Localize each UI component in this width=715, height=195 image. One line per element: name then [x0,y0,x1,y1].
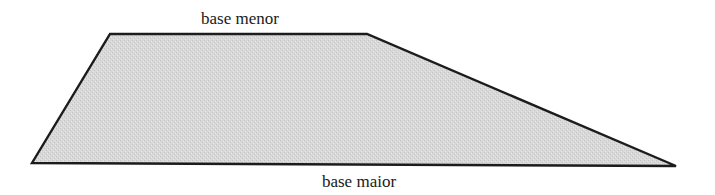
trapezoid-diagram [0,0,715,195]
trapezoid-shape [32,34,676,166]
bottom-base-label: base maior [322,173,396,190]
top-base-label: base menor [201,10,279,27]
